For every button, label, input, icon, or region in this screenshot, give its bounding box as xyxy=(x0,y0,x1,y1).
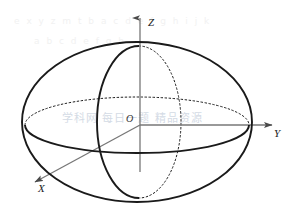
origin-label: O xyxy=(126,113,133,124)
ellipsoid-diagram-canvas: e x y z m t b a c d e f g h i j k a b c … xyxy=(0,0,292,218)
y-axis-label: Y xyxy=(274,127,282,139)
x-axis-label: X xyxy=(37,182,46,194)
background-bleed-top: e x y z m t b a c d e f g h i j k a b c … xyxy=(14,16,211,46)
bleed-text-line1: e x y z m t b a c d e f g h i j k xyxy=(14,16,211,26)
ellipsoid-figure: e x y z m t b a c d e f g h i j k a b c … xyxy=(0,0,292,218)
equator-front-half xyxy=(25,125,249,153)
z-axis-label: Z xyxy=(148,16,155,28)
